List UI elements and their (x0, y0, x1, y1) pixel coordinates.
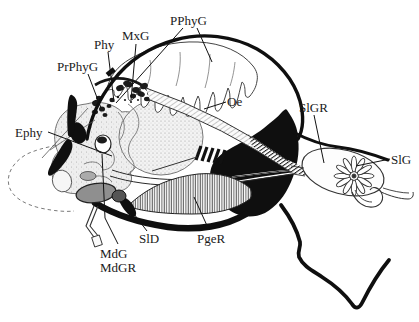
label-SlG: SlG (391, 152, 411, 167)
mandibular-gland-reservoir (112, 190, 126, 202)
anatomical-diagram: PPhyGMxGPhyPrPhyGOeEphySlGRSlGSlDPgeRMdG… (0, 0, 419, 322)
label-MdG: MdG (100, 246, 127, 261)
postgenal-ridge-hatch (131, 174, 252, 214)
label-MxG: MxG (122, 28, 149, 43)
maxillary-palp (86, 206, 102, 247)
label-SlGR: SlGR (299, 100, 328, 115)
label-Phy: Phy (94, 37, 115, 52)
label-PPhyG: PPhyG (170, 13, 207, 28)
leader-line-MdG (105, 218, 118, 244)
label-SlD: SlD (139, 231, 159, 246)
label-MdGR: MdGR (100, 260, 136, 275)
label-Oe: Oe (227, 94, 242, 109)
label-Ephy: Ephy (15, 125, 43, 140)
diagram-canvas: PPhyGMxGPhyPrPhyGOeEphySlGRSlGSlDPgeRMdG… (0, 0, 419, 322)
label-PgeR: PgeR (197, 231, 226, 246)
label-PrPhyG: PrPhyG (57, 59, 98, 74)
